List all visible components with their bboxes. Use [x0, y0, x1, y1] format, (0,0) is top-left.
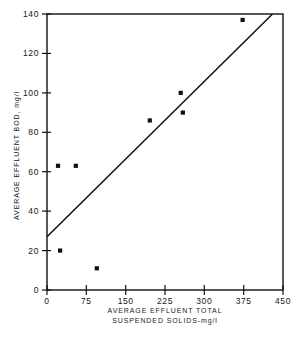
x-axis-title: AVERAGE EFFLUENT TOTAL SUSPENDED SOLIDS-…: [47, 306, 283, 326]
trend-line-segment: [47, 14, 273, 237]
y-axis-tick-labels: 0 20 40 60 80 100 120 140: [23, 9, 39, 295]
data-point: [241, 18, 245, 22]
x-tick-label-75: 75: [81, 296, 92, 306]
x-tick-label-375: 375: [236, 296, 252, 306]
scatter-plot-figure: 0 20 40 60 80 100 120 140 0 75 150 225 3…: [0, 0, 302, 339]
data-point: [58, 248, 62, 252]
y-axis-title: AVERAGE EFFLUENT BOD, mg/l: [13, 66, 20, 246]
y-tick-label-120: 120: [23, 48, 39, 58]
plot-border: [47, 14, 283, 290]
x-axis-tick-labels: 0 75 150 225 300 375 450: [44, 296, 291, 306]
x-tick-label-150: 150: [118, 296, 134, 306]
x-axis-title-line1: AVERAGE EFFLUENT TOTAL: [47, 306, 283, 316]
x-axis-title-line2: SUSPENDED SOLIDS-mg/l: [47, 316, 283, 326]
regression-line: [47, 14, 273, 237]
data-point: [95, 266, 99, 270]
y-tick-label-20: 20: [28, 246, 39, 256]
data-points-group: [56, 18, 245, 271]
y-tick-label-60: 60: [28, 167, 39, 177]
data-point: [74, 164, 78, 168]
y-tick-label-0: 0: [34, 285, 39, 295]
x-tick-label-225: 225: [157, 296, 173, 306]
data-point: [56, 164, 60, 168]
data-point: [179, 91, 183, 95]
data-point: [148, 118, 152, 122]
data-point: [181, 110, 185, 114]
x-tick-label-0: 0: [44, 296, 49, 306]
y-tick-label-100: 100: [23, 88, 39, 98]
x-tick-label-300: 300: [196, 296, 212, 306]
y-tick-label-40: 40: [28, 206, 39, 216]
chart-canvas: 0 20 40 60 80 100 120 140 0 75 150 225 3…: [0, 0, 302, 339]
x-tick-label-450: 450: [275, 296, 291, 306]
y-tick-label-140: 140: [23, 9, 39, 19]
plot-frame: [47, 14, 283, 290]
y-tick-label-80: 80: [28, 127, 39, 137]
